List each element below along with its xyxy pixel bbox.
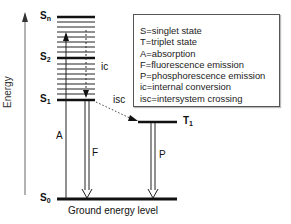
energy-axis-label: Energy bbox=[2, 76, 13, 108]
phosphorescence-label: P bbox=[159, 149, 166, 160]
state-subscript: 1 bbox=[189, 120, 193, 127]
phosphorescence-arrow bbox=[148, 123, 158, 198]
state-symbol: S bbox=[40, 192, 47, 203]
legend-item: ic=internal conversion bbox=[140, 81, 279, 92]
energy-axis bbox=[22, 12, 28, 195]
legend-item: T=triplet state bbox=[140, 36, 279, 47]
fluorescence-label: F bbox=[92, 147, 98, 158]
state-symbol: S bbox=[40, 10, 47, 21]
state-label-s1: S1 bbox=[40, 93, 51, 105]
internal-conversion-label: ic bbox=[101, 61, 108, 72]
legend-item: S=singlet state bbox=[140, 25, 279, 36]
legend-item: A=absorption bbox=[140, 48, 279, 59]
state-symbol: S bbox=[40, 93, 47, 104]
state-symbol: S bbox=[40, 51, 47, 62]
fluorescence-arrow bbox=[82, 101, 92, 198]
legend-box: S=singlet state T=triplet state A=absorp… bbox=[133, 14, 280, 107]
state-label-s0: S0 bbox=[40, 192, 51, 204]
intersystem-crossing-label: isc bbox=[113, 94, 125, 105]
state-label-s2: S2 bbox=[40, 51, 51, 63]
ground-energy-label: Ground energy level bbox=[68, 205, 158, 216]
legend-item: P=phosphorescence emission bbox=[140, 70, 279, 81]
state-subscript: 0 bbox=[47, 197, 51, 204]
state-subscript: 2 bbox=[47, 56, 51, 63]
state-subscript: n bbox=[47, 15, 51, 22]
legend-item: isc=intersystem crossing bbox=[140, 93, 279, 104]
state-subscript: 1 bbox=[47, 98, 51, 105]
state-label-sn: Sn bbox=[40, 10, 51, 22]
absorption-label: A bbox=[56, 130, 63, 141]
legend-item: F=fluorescence emission bbox=[140, 59, 279, 70]
state-label-t1: T1 bbox=[183, 115, 193, 127]
